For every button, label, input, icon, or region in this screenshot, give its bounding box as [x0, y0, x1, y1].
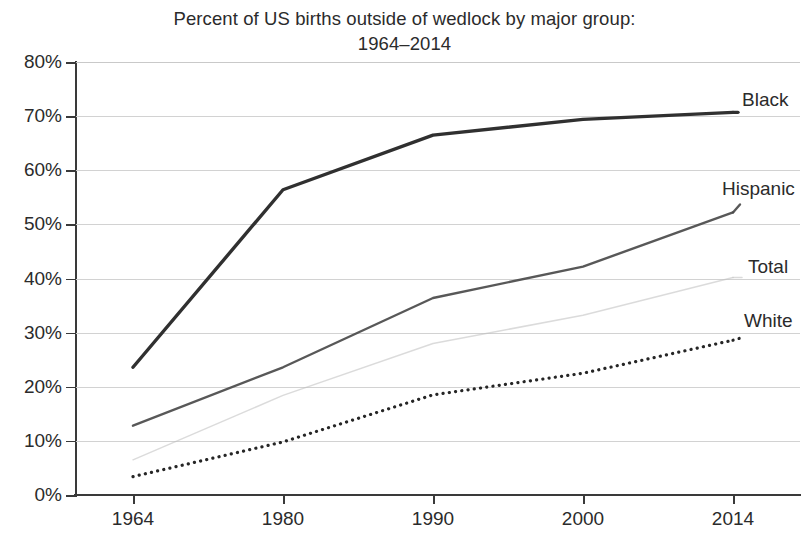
series-label-black: Black — [742, 89, 788, 111]
series-line-hispanic — [133, 212, 733, 425]
series-leader-white — [733, 338, 740, 340]
series-label-total: Total — [748, 256, 788, 278]
series-line-white — [133, 340, 733, 476]
series-label-white: White — [744, 310, 793, 332]
series-leader-hispanic — [733, 204, 740, 212]
series-label-hispanic: Hispanic — [722, 178, 795, 200]
series-lines — [0, 0, 809, 541]
series-line-black — [133, 112, 733, 367]
series-line-total — [133, 277, 733, 459]
chart-container: Percent of US births outside of wedlock … — [0, 0, 809, 541]
